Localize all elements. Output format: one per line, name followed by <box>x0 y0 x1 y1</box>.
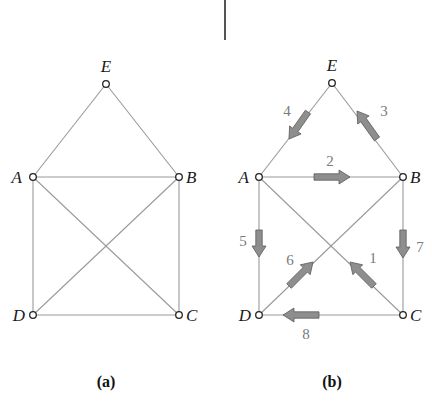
edge-e-b <box>106 84 179 177</box>
vertex-label-a: A <box>11 168 23 187</box>
edge-number-label: 4 <box>283 103 291 119</box>
direction-arrow-icon <box>314 170 350 184</box>
vertex-label-d: D <box>12 306 26 325</box>
vertex-a <box>30 174 37 181</box>
vertex-b <box>176 174 183 181</box>
vertex-label-b: B <box>186 168 197 187</box>
vertex-e <box>103 81 110 88</box>
vertex-c <box>400 312 407 319</box>
edge-number-label: 6 <box>286 252 294 268</box>
graph-a-nodes: EABDC <box>11 57 198 325</box>
vertex-label-e: E <box>100 57 112 76</box>
caption-b: (b) <box>322 373 342 391</box>
vertex-label-c: C <box>186 306 198 325</box>
graph-b-arrows: 12345678 <box>239 103 424 342</box>
vertex-c <box>176 312 183 319</box>
vertex-b <box>400 174 407 181</box>
direction-arrow-icon <box>396 230 410 258</box>
edge-number-label: 3 <box>380 103 388 119</box>
edge-number-label: 5 <box>239 233 247 249</box>
graph-a-undirected: EABDC (a) <box>11 57 198 391</box>
vertex-label-d: D <box>238 306 252 325</box>
edge-number-label: 2 <box>326 153 334 169</box>
edge-number-label: 8 <box>302 326 310 342</box>
graph-b-nodes: EABDC <box>238 56 422 325</box>
direction-arrow-icon <box>283 308 319 322</box>
edge-number-label: 1 <box>369 250 377 266</box>
vertex-d <box>256 312 263 319</box>
edge-number-label: 7 <box>416 239 424 255</box>
direction-arrow-icon <box>289 110 311 139</box>
graph-b-directed: 12345678 EABDC (b) <box>238 56 425 391</box>
direction-arrow-icon <box>357 111 380 141</box>
vertex-label-c: C <box>410 306 422 325</box>
edge-e-a <box>33 84 106 177</box>
vertex-e <box>329 80 336 87</box>
vertex-d <box>30 312 37 319</box>
vertex-label-a: A <box>238 168 250 187</box>
caption-a: (a) <box>97 373 116 391</box>
graph-figure: EABDC (a) 12345678 EABDC (b) <box>0 0 432 409</box>
graph-a-edges <box>33 84 179 315</box>
vertex-label-b: B <box>410 168 421 187</box>
vertex-a <box>256 174 263 181</box>
direction-arrow-icon <box>252 230 266 257</box>
vertex-label-e: E <box>326 56 338 75</box>
